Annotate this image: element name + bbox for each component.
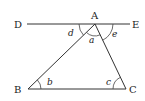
angle-label-e: e <box>112 29 117 39</box>
point-label-a: A <box>90 10 99 21</box>
segment-ab <box>28 24 95 89</box>
angle-label-c: c <box>106 77 111 87</box>
angle-label-b: b <box>47 77 53 87</box>
point-label-c: C <box>129 84 137 95</box>
angle-arc-c <box>113 77 120 89</box>
point-label-b: B <box>14 84 21 95</box>
angle-label-d: d <box>68 28 74 38</box>
point-label-d: D <box>14 19 22 30</box>
angle-arc-b <box>37 80 41 89</box>
point-label-e: E <box>132 19 139 30</box>
triangle-diagram: D E A B C d a e b c <box>0 0 145 101</box>
angle-arc-d <box>79 24 84 35</box>
angle-label-a: a <box>89 35 94 45</box>
